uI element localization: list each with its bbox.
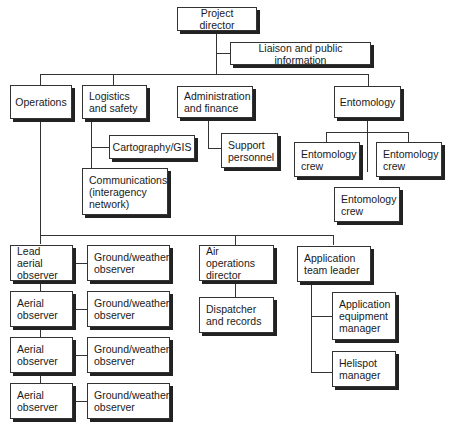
connector [208,118,209,148]
node-liaison: Liaison and public information [230,42,371,65]
connector [326,132,327,142]
node-label: Administration and finance [184,90,251,114]
node-aerial-observer: Aerial observer [10,291,73,327]
node-label: Entomology [340,96,395,108]
connector [40,74,369,75]
connector [311,282,312,373]
connector [73,309,87,310]
node-label: Aerial observer [17,343,58,367]
node-label: Support personnel [228,139,274,163]
node-ground-weather-observer: Ground/weather observer [87,245,170,281]
node-label: Liaison and public information [237,42,364,66]
connector [73,401,87,402]
node-label: Ground/weather observer [94,343,169,367]
node-label: Entomology crew [301,148,356,172]
node-air-operations-director: Air operations director [199,245,274,281]
node-aerial-observer: Aerial observer [10,383,73,419]
node-label: Helispot manager [339,357,380,381]
connector [235,235,236,245]
node-entomology-crew: Entomology crew [334,187,400,222]
connector [311,316,332,317]
node-logistics: Logistics and safety [82,85,147,119]
node-helispot-manager: Helispot manager [332,351,396,387]
connector [73,263,87,264]
node-administration: Administration and finance [177,86,253,118]
node-label: Aerial observer [17,389,58,413]
node-entomology: Entomology [334,86,401,118]
node-label: Entomology crew [341,193,396,217]
node-ground-weather-observer: Ground/weather observer [87,291,170,327]
connector [408,132,409,142]
node-label: Aerial observer [17,297,58,321]
connector [333,235,334,245]
node-label: Lead aerial observer [17,245,66,281]
connector [40,119,41,244]
node-project-director: Project director [177,7,257,31]
connector [368,74,369,86]
node-entomology-crew: Entomology crew [294,142,360,177]
node-dispatcher: Dispatcher and records [199,297,274,333]
node-label: Cartography/GIS [113,141,192,153]
node-label: Air operations director [206,245,267,281]
connector [40,235,333,236]
node-label: Dispatcher and records [206,303,261,327]
node-label: Ground/weather observer [94,389,169,413]
connector [367,118,368,172]
connector [91,147,109,148]
node-entomology-crew: Entomology crew [376,142,442,177]
node-ground-weather-observer: Ground/weather observer [87,337,170,373]
node-label: Operations [15,96,66,108]
node-application-team-leader: Application team leader [297,246,371,282]
connector [208,148,221,149]
node-cartography: Cartography/GIS [109,135,195,159]
connector [311,372,332,373]
connector [235,281,236,298]
node-label: Entomology crew [383,148,438,172]
connector [326,132,409,133]
connector [91,120,92,170]
node-support-personnel: Support personnel [221,133,278,168]
node-label: Project director [184,7,250,31]
node-label: Ground/weather observer [94,297,169,321]
node-label: Logistics and safety [89,90,137,114]
connector [216,53,230,54]
node-lead-aerial-observer: Lead aerial observer [10,245,73,281]
node-label: Application team leader [304,252,359,276]
node-communications: Communications (interagency network) [82,168,168,215]
node-application-equipment-manager: Application equipment manager [332,292,396,340]
connector [73,355,87,356]
node-aerial-observer: Aerial observer [10,337,73,373]
node-label: Ground/weather observer [94,251,169,275]
node-label: Application equipment manager [339,298,390,334]
node-operations: Operations [10,85,72,119]
node-label: Communications (interagency network) [89,174,167,210]
node-ground-weather-observer: Ground/weather observer [87,383,170,419]
